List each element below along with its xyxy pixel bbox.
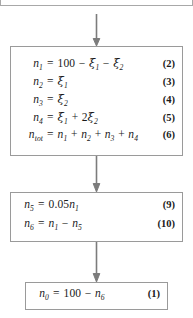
arrow-reduction-to-initial [90,242,103,282]
equation-row: n6=n1 − n5 (10) [19,217,176,236]
equation-row: n0=100 − n6 (1) [34,287,161,305]
equation-row: ntot=n1 + n2 + n3 + n4 (6) [19,128,176,146]
equation-tag: (9) [157,199,176,210]
reduction-equation-list: n5=0.05n1 (9) n6=n1 − n5 (10) [11,193,182,241]
equation-row: n3=ξ2 (4) [19,92,176,110]
equation-body-n3: n3=ξ2 [19,92,68,106]
equation-body-n1: n1=100 − ξ1 − ξ2 [19,56,123,70]
equation-tag: (4) [157,94,176,105]
equation-row: n2=ξ1 (3) [19,74,176,92]
species-balance-box: n1=100 − ξ1 − ξ2 (2) n2=ξ1 (3) n3=ξ2 (4)… [10,46,183,156]
equation-tag: (5) [157,112,176,123]
reduction-box: n5=0.05n1 (9) n6=n1 − n5 (10) [10,192,183,242]
equation-tag: (1) [142,288,161,299]
equation-tag: (2) [157,58,176,69]
initial-amount-equation-list: n0=100 − n6 (1) [26,283,167,309]
equation-tag: (10) [152,218,177,229]
arrow-top-to-species-balance [90,14,103,46]
equation-row: n1=100 − ξ1 − ξ2 (2) [19,56,176,74]
equation-row: n5=0.05n1 (9) [19,198,176,217]
equation-row: n4=ξ1 + 2ξ2 (5) [19,110,176,128]
equation-body-n4: n4=ξ1 + 2ξ2 [19,110,98,124]
equation-tag: (3) [157,76,176,87]
arrow-species-balance-to-reduction [90,156,103,192]
equation-body-ntot: ntot=n1 + n2 + n3 + n4 [19,128,138,140]
equation-body-n6: n6=n1 − n5 [19,217,82,229]
equation-tag: (6) [157,129,176,140]
equation-body-n0: n0=100 − n6 [34,287,105,299]
initial-amount-box: n0=100 − n6 (1) [25,282,168,310]
equation-body-n2: n2=ξ1 [19,74,68,88]
species-balance-equation-list: n1=100 − ξ1 − ξ2 (2) n2=ξ1 (3) n3=ξ2 (4)… [11,47,182,155]
equation-body-n5: n5=0.05n1 [19,198,79,210]
top-partial-box: ξ₁ ξ₂ [0,0,193,6]
